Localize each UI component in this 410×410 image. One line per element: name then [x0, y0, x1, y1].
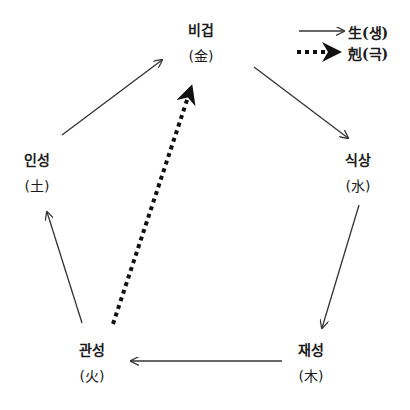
node-name: 비겁: [171, 20, 231, 40]
node-jaeseong: 재성 (木): [281, 340, 341, 386]
edge-gwanseong-to-bigeop-overcome: [113, 88, 191, 324]
node-element: (木): [281, 366, 341, 386]
node-element: (火): [62, 366, 122, 386]
edge-bigeop-to-siksang: [254, 67, 348, 138]
node-inseong: 인성 (土): [7, 150, 67, 196]
node-name: 식상: [328, 150, 388, 170]
node-element: (土): [7, 176, 67, 196]
edge-inseong-to-bigeop: [62, 60, 162, 135]
legend-overcome-label: 剋(극): [348, 43, 388, 63]
node-gwanseong: 관성 (火): [62, 340, 122, 386]
node-name: 인성: [7, 150, 67, 170]
node-siksang: 식상 (水): [328, 150, 388, 196]
node-name: 관성: [62, 340, 122, 360]
edge-siksang-to-jaeseong: [322, 205, 359, 328]
edge-gwanseong-to-inseong: [47, 212, 82, 323]
node-bigeop: 비겁 (金): [171, 20, 231, 66]
legend-generate-label: 生(생): [348, 22, 388, 42]
node-element: (金): [171, 46, 231, 66]
node-name: 재성: [281, 340, 341, 360]
node-element: (水): [328, 176, 388, 196]
